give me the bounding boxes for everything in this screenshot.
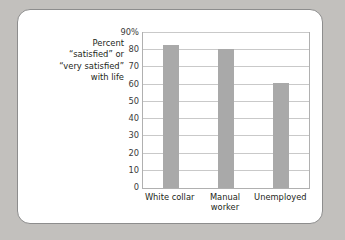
y-axis: 0102030405060708090% xyxy=(114,32,139,189)
x-tick-label: White collar xyxy=(142,192,197,202)
figure: Percent “satisfied” or “very satisfied” … xyxy=(0,0,345,240)
y-tick-label: 90% xyxy=(114,28,139,36)
bar xyxy=(218,49,234,189)
y-tick-label: 10 xyxy=(114,166,139,174)
x-tick-label: Unemployed xyxy=(253,192,308,202)
bar xyxy=(273,83,289,188)
y-tick-label: 40 xyxy=(114,114,139,122)
chart-card: Percent “satisfied” or “very satisfied” … xyxy=(17,9,323,224)
y-tick-label: 60 xyxy=(114,80,139,88)
y-tick-label: 30 xyxy=(114,131,139,139)
plot-area xyxy=(142,32,310,189)
bar-series xyxy=(143,33,309,188)
y-tick-label: 20 xyxy=(114,148,139,156)
y-tick-label: 50 xyxy=(114,97,139,105)
y-tick-label: 70 xyxy=(114,62,139,70)
bar xyxy=(163,45,179,188)
y-tick-label: 0 xyxy=(114,183,139,191)
chart-caption: Percent “satisfied” or “very satisfied” … xyxy=(32,38,124,84)
x-axis: White collarManual workerUnemployed xyxy=(142,192,310,222)
x-tick-label: Manual worker xyxy=(197,192,252,212)
y-tick-label: 80 xyxy=(114,45,139,53)
